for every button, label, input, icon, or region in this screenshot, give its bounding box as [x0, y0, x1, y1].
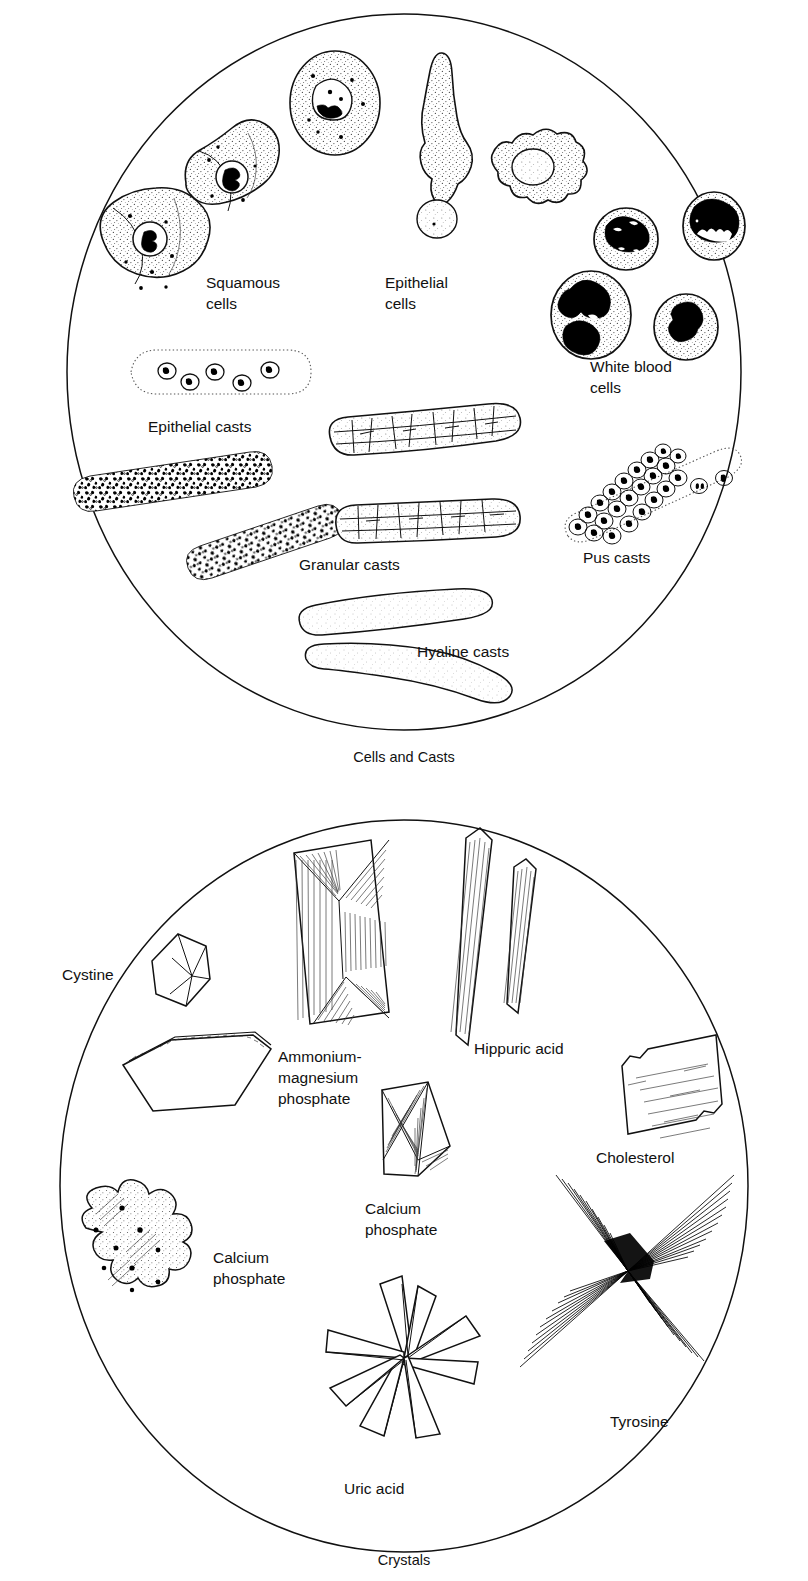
hyaline-cast-group: Hyaline casts [299, 589, 512, 703]
white-blood-cells-label-line2: cells [590, 379, 621, 396]
panel-crystals: Cystine Ammonium- magnesium phosphate [0, 790, 808, 1581]
epithelial-cell-lobed [492, 129, 587, 203]
cystine-hexagon [152, 934, 210, 1006]
epithelial-cast-group: Epithelial casts [131, 350, 311, 435]
pus-cast-cell-cluster [569, 444, 733, 544]
panel-cells-and-casts: Squamous cells Epithelial [0, 0, 808, 790]
white-blood-cells-label-line1: White blood [590, 358, 672, 375]
pus-cast-group: Pus casts [565, 444, 741, 566]
epithelial-cell-elongated [417, 53, 472, 238]
epithelial-casts-label: Epithelial casts [148, 418, 252, 435]
granular-cast-mosaic-1 [329, 404, 520, 456]
granular-cast-group: Granular casts [73, 404, 520, 580]
granular-casts-label: Granular casts [299, 556, 400, 573]
cells-panel-caption: Cells and Casts [353, 749, 455, 765]
epithelial-cast-cell-3 [206, 364, 224, 380]
white-blood-cell-1 [594, 208, 658, 270]
calcium-phosphate-wedge-label-line1: Calcium [365, 1200, 421, 1217]
hippuric-acid-label: Hippuric acid [474, 1040, 564, 1057]
epithelial-cast-cell-2 [181, 374, 199, 390]
squamous-cell-group: Squamous cells [100, 120, 280, 312]
hippuric-acid-needle-1 [451, 828, 492, 1045]
calcium-phosphate-wedge-crystal: Calcium phosphate [365, 1082, 450, 1238]
white-blood-cell-4 [654, 294, 718, 360]
squamous-cells-label-line1: Squamous [206, 274, 280, 291]
calcium-phosphate-wedge-label-line2: phosphate [365, 1221, 437, 1238]
calcium-phosphate-amorphous-crystal: Calcium phosphate [82, 1180, 285, 1292]
granular-cast-mosaic-2 [336, 499, 520, 543]
cholesterol-crystal: Cholesterol [596, 1035, 722, 1166]
crystals-panel-boundary-circle [60, 820, 748, 1552]
epithelial-cast-cell-4 [233, 375, 251, 391]
pus-casts-label: Pus casts [583, 549, 650, 566]
tyrosine-label: Tyrosine [610, 1413, 669, 1430]
squamous-cell-2 [185, 120, 279, 211]
squamous-cells-label-line2: cells [206, 295, 237, 312]
struvite-crystal: Ammonium- magnesium phosphate [278, 840, 389, 1107]
granular-cast-dark-1 [73, 452, 272, 512]
cholesterol-label: Cholesterol [596, 1149, 674, 1166]
struvite-label-line1: Ammonium- [278, 1048, 362, 1065]
epithelial-cell-oval [290, 51, 380, 155]
struvite-label-line2: magnesium [278, 1069, 358, 1086]
white-blood-cell-group: White blood cells [551, 192, 745, 396]
epithelial-cell-group: Epithelial cells [290, 51, 587, 312]
hyaline-casts-label: Hyaline casts [417, 643, 509, 660]
pus-cast-isolated-cell-1 [691, 479, 708, 494]
epithelial-cast-cell-5 [261, 362, 279, 378]
hippuric-acid-crystal-group: Hippuric acid [451, 828, 564, 1057]
uric-acid-label: Uric acid [344, 1480, 404, 1497]
calcium-phosphate-amorphous-label-line2: phosphate [213, 1270, 285, 1287]
cystine-label: Cystine [62, 966, 114, 983]
squamous-cell-1 [100, 188, 210, 290]
white-blood-cell-2 [683, 192, 745, 260]
epithelial-cells-label-line1: Epithelial [385, 274, 448, 291]
epithelial-cast-cell-1 [158, 363, 176, 379]
white-blood-cell-3 [551, 271, 631, 359]
epithelial-cells-label-line2: cells [385, 295, 416, 312]
cystine-plate-hexagon: Cystine [62, 966, 271, 1111]
cystine-crystal-group: Cystine [62, 934, 271, 1111]
hippuric-acid-needle-2 [504, 859, 536, 1013]
crystals-panel-caption: Crystals [378, 1552, 430, 1568]
uric-acid-crystal: Uric acid [326, 1276, 480, 1497]
calcium-phosphate-amorphous-label-line1: Calcium [213, 1249, 269, 1266]
tyrosine-crystal: Tyrosine [520, 1175, 734, 1430]
struvite-label-line3: phosphate [278, 1090, 350, 1107]
